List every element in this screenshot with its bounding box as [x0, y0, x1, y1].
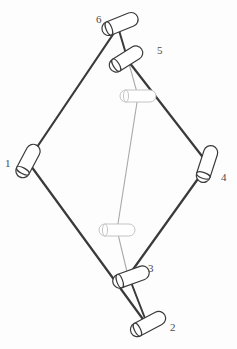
joint-label-6: 6: [96, 14, 102, 25]
joint-end-cap: [102, 224, 107, 236]
link-6-1: [31, 27, 118, 156]
joint-label-1: 1: [5, 158, 11, 169]
link-5-4: [129, 62, 205, 160]
joint-label-5: 5: [157, 45, 163, 56]
joint-2: [128, 309, 168, 339]
link-1-2: [31, 166, 145, 322]
joint-5: [107, 43, 146, 74]
joint-7: [120, 90, 156, 102]
linkage-svg-canvas: [0, 0, 237, 349]
joint-label-3: 3: [148, 263, 154, 274]
joint-end-cap: [123, 90, 128, 102]
joint-label-4: 4: [221, 172, 227, 183]
linkage-diagram: 123456: [0, 0, 237, 349]
joint-label-2: 2: [170, 322, 176, 333]
link-4-3: [129, 169, 205, 275]
joint-8: [99, 224, 135, 236]
joints-layer: [13, 10, 219, 339]
joint-3: [111, 264, 151, 290]
